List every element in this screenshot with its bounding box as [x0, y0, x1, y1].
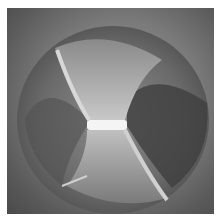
drill-tip-illustration	[7, 8, 214, 214]
drill-tip-photo	[7, 8, 214, 214]
chisel-edge-highlight	[87, 120, 127, 130]
